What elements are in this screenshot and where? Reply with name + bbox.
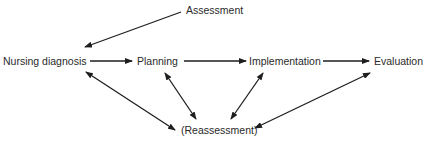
node-planning: Planning — [137, 55, 178, 67]
diagram-edges — [0, 0, 427, 142]
edge-implementation-reassessment — [231, 73, 263, 119]
node-implementation: Implementation — [249, 55, 321, 67]
edge-assessment-to-diagnosis — [85, 12, 181, 47]
node-assessment: Assessment — [186, 4, 243, 16]
node-nursing-diagnosis: Nursing diagnosis — [3, 55, 86, 67]
node-reassessment: (Reassessment) — [181, 124, 257, 136]
edge-planning-reassessment — [165, 73, 196, 119]
node-evaluation: Evaluation — [374, 55, 423, 67]
edge-evaluation-reassessment — [255, 73, 370, 128]
edge-diagnosis-reassessment — [86, 72, 175, 130]
